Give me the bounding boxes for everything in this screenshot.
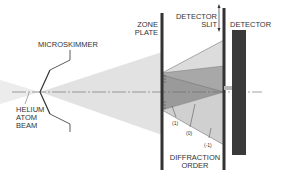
detector-slit-label: DETECTOR SLIT [176, 13, 217, 29]
helium-atom-beam-label: HELIUM ATOM BEAM [16, 106, 44, 130]
diffraction-label-line2: ORDER [168, 162, 222, 170]
order-plus1-label: (1) [172, 120, 178, 126]
zone-label-line2: PLATE [135, 29, 158, 37]
detector [232, 30, 246, 155]
detector-label: DETECTOR [230, 21, 271, 29]
helium-label-line3: BEAM [16, 122, 44, 130]
order-minus1-label: (-1) [204, 142, 212, 148]
microskimmer-label: MICROSKIMMER [38, 41, 98, 49]
diffraction-order-label: DIFFRACTION ORDER [168, 154, 222, 170]
zone-plate-label: ZONE PLATE [135, 21, 158, 37]
order-zero-label: (0) [186, 130, 192, 136]
slit-label-line2: SLIT [176, 21, 217, 29]
diverging-beam [40, 52, 162, 135]
zone-plate [161, 13, 164, 170]
